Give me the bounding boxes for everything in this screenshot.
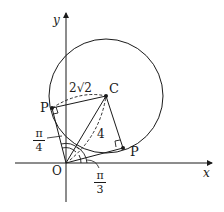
right-angle-lower: [115, 140, 120, 147]
point-P-upper: [50, 106, 54, 110]
leader-pi-over-3: [87, 160, 99, 168]
tangent-point-lower-label: P: [130, 145, 139, 158]
diagram-canvas: [0, 0, 224, 212]
angle-upper-denominator: 4: [33, 142, 45, 153]
radius-CP-upper: [52, 96, 106, 108]
angle-label-pi-over-3: π 3: [94, 170, 106, 195]
radius-label: 2√2: [69, 82, 92, 94]
radius-CP-lower: [106, 96, 123, 148]
point-C: [104, 94, 108, 98]
point-P-lower: [121, 146, 125, 150]
x-axis-label: x: [203, 167, 210, 179]
segment-OP-upper: [52, 108, 66, 163]
distance-OC-label: 4: [97, 128, 105, 140]
center-label: C: [109, 82, 119, 95]
tangent-point-upper-label: P: [40, 101, 49, 114]
origin-label: O: [52, 165, 62, 177]
angle-upper-numerator: π: [33, 128, 45, 139]
y-axis-label: y: [53, 14, 60, 26]
angle-label-pi-over-4: π 4: [33, 128, 45, 153]
angle-arc-upper-1: [62, 148, 76, 152]
angle-lower-denominator: 3: [94, 184, 106, 195]
angle-lower-numerator: π: [94, 170, 106, 181]
